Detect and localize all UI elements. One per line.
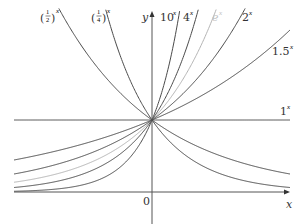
svg-text:x: x [289, 43, 294, 51]
svg-text:x: x [248, 9, 253, 17]
svg-text:x: x [55, 7, 60, 15]
svg-text:): ) [51, 12, 55, 25]
curve--1-4-x [106, 10, 290, 188]
svg-text:1.5: 1.5 [272, 45, 290, 58]
svg-text:4: 4 [97, 16, 101, 23]
svg-text:(: ( [40, 12, 44, 25]
curve-10-x [14, 11, 180, 191]
svg-text:(: ( [91, 12, 95, 25]
svg-text:x: x [172, 9, 177, 17]
svg-text:2: 2 [242, 11, 249, 24]
curve-4-x [14, 10, 198, 188]
label-10-x: 10 x [160, 9, 177, 24]
svg-text:10: 10 [160, 11, 174, 24]
svg-text:x: x [189, 9, 194, 17]
label-2-x: 2 x [242, 9, 253, 24]
svg-text:): ) [102, 12, 106, 25]
origin-label: 0 [143, 195, 150, 208]
curve-2-x [14, 8, 245, 174]
svg-text:x: x [286, 103, 291, 111]
label-1.5-x: 1.5 x [272, 43, 294, 58]
svg-text:1: 1 [97, 8, 100, 15]
curve--1-2-x [59, 8, 290, 174]
label-4-x: 4 x [183, 9, 194, 24]
label-e-x: e x [212, 9, 223, 24]
y-axis-arrow-icon [150, 11, 155, 17]
exponential-functions-chart: y x 0 ( 1 2 ) x ( 1 4 ) x 10 x 4 x e x 2… [0, 0, 303, 224]
svg-text:2: 2 [46, 16, 49, 23]
x-axis-label: x [286, 198, 293, 211]
svg-text:1: 1 [46, 8, 49, 15]
label-1-x: 1 x [280, 103, 291, 118]
svg-text:x: x [106, 7, 111, 15]
svg-text:1: 1 [280, 105, 287, 118]
y-axis-label: y [141, 11, 149, 24]
label-half-x: ( 1 2 ) x [40, 7, 60, 25]
curve-e-x [14, 10, 216, 183]
svg-text:x: x [218, 9, 223, 17]
svg-text:4: 4 [183, 11, 190, 24]
svg-text:e: e [212, 11, 219, 24]
x-axis-arrow-icon [284, 190, 290, 195]
